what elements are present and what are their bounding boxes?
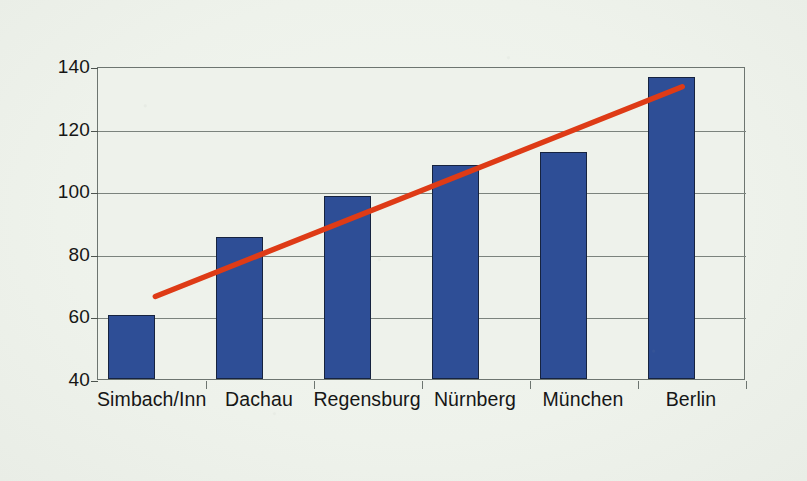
x-axis-label-2: Dachau (205, 388, 313, 411)
y-axis-tick (91, 193, 98, 194)
y-axis-labels: 406080100120140 (38, 67, 90, 380)
y-axis-tick (91, 131, 98, 132)
y-axis-tick (91, 318, 98, 319)
y-axis-tick-label: 80 (44, 244, 90, 266)
x-axis-label-3: Regensburg (313, 388, 421, 411)
y-axis-tick-label: 40 (44, 369, 90, 391)
x-axis-label-1: Simbach/Inn (97, 388, 205, 411)
y-axis-tick (91, 256, 98, 257)
trendline (155, 87, 682, 297)
x-axis-labels: Simbach/InnDachauRegensburgNürnbergMünch… (97, 388, 745, 422)
x-axis-label-6: Berlin (637, 388, 745, 411)
y-axis-tick-label: 100 (44, 181, 90, 203)
y-axis-tick-label: 60 (44, 306, 90, 328)
x-axis-label-5: München (529, 388, 637, 411)
x-axis-tick (746, 381, 747, 389)
chart-figure: 406080100120140 Simbach/InnDachauRegensb… (0, 0, 807, 481)
x-axis-label-4: Nürnberg (421, 388, 529, 411)
y-axis-tick (91, 68, 98, 69)
y-axis-tick (91, 381, 98, 382)
plot-area (97, 67, 745, 380)
y-axis-tick-label: 140 (44, 56, 90, 78)
trendline-series (98, 68, 746, 381)
y-axis-tick-label: 120 (44, 119, 90, 141)
